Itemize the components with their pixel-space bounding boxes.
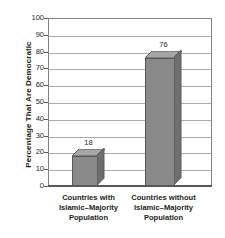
bar-value-label-0: 18 xyxy=(69,139,109,147)
y-tick-label-70: 70 xyxy=(24,64,44,72)
bar-chart: Percentage That Are Democratic 010203040… xyxy=(0,0,225,238)
bar-front-face-0 xyxy=(72,156,98,186)
category-label-1: Countries withoutIslamic–MajorityPopulat… xyxy=(116,193,212,224)
y-tick-mark-10 xyxy=(44,169,48,170)
y-tick-label-30: 30 xyxy=(24,132,44,140)
y-tick-label-20: 20 xyxy=(24,148,44,156)
y-tick-label-100: 100 xyxy=(24,14,44,22)
y-tick-mark-60 xyxy=(44,85,48,86)
bar-side-face-1 xyxy=(174,50,182,186)
y-tick-mark-100 xyxy=(44,18,48,19)
gridline-70 xyxy=(49,69,211,70)
y-tick-mark-90 xyxy=(44,35,48,36)
y-tick-label-10: 10 xyxy=(24,165,44,173)
bar-front-face-1 xyxy=(145,58,175,186)
y-tick-mark-70 xyxy=(44,68,48,69)
y-tick-label-60: 60 xyxy=(24,81,44,89)
bar-0 xyxy=(72,149,98,186)
category-label-line: Population xyxy=(116,213,212,223)
gridline-60 xyxy=(49,86,211,87)
category-label-line: Countries without xyxy=(116,193,212,203)
bar-1 xyxy=(145,51,175,186)
y-tick-mark-20 xyxy=(44,152,48,153)
gridline-40 xyxy=(49,120,211,121)
y-tick-label-40: 40 xyxy=(24,115,44,123)
y-tick-label-90: 90 xyxy=(24,31,44,39)
gridline-80 xyxy=(49,53,211,54)
gridline-50 xyxy=(49,103,211,104)
category-label-line: Islamic–Majority xyxy=(116,203,212,213)
y-tick-mark-80 xyxy=(44,52,48,53)
y-tick-label-80: 80 xyxy=(24,48,44,56)
y-tick-label-50: 50 xyxy=(24,98,44,106)
y-tick-mark-40 xyxy=(44,119,48,120)
y-tick-mark-50 xyxy=(44,102,48,103)
gridline-30 xyxy=(49,137,211,138)
bar-value-label-1: 76 xyxy=(144,41,184,49)
y-tick-mark-0 xyxy=(44,186,48,187)
y-tick-mark-30 xyxy=(44,136,48,137)
gridline-90 xyxy=(49,36,211,37)
bar-side-face-0 xyxy=(97,148,105,186)
y-tick-label-0: 0 xyxy=(24,182,44,190)
